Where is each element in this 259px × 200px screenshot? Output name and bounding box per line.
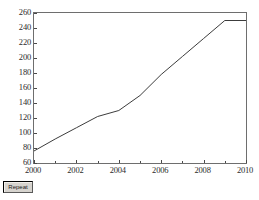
y-tick-label: 220 (1, 38, 31, 47)
x-tick-mark (98, 161, 99, 163)
plot-frame (33, 12, 247, 164)
y-tick-mark (34, 73, 37, 74)
chart-window: 6080100120140160180200220240260 20002002… (0, 0, 259, 200)
y-tick-mark (34, 118, 37, 119)
repeat-button[interactable]: Repeat (3, 181, 33, 193)
y-tick-mark (34, 88, 37, 89)
y-tick-mark (34, 103, 37, 104)
y-tick-mark (34, 28, 37, 29)
y-tick-label: 240 (1, 23, 31, 32)
x-tick-label: 2006 (152, 166, 168, 175)
x-tick-label: 2002 (67, 166, 83, 175)
x-tick-label: 2010 (237, 166, 253, 175)
y-tick-mark (34, 43, 37, 44)
x-tick-mark (140, 161, 141, 163)
series-1-line (34, 21, 246, 152)
x-tick-mark (246, 160, 247, 163)
y-tick-mark (34, 163, 37, 164)
y-tick-label: 140 (1, 98, 31, 107)
x-tick-mark (55, 161, 56, 163)
y-tick-mark (34, 58, 37, 59)
x-tick-mark (161, 160, 162, 163)
y-tick-mark (34, 148, 37, 149)
y-axis-tick-labels: 6080100120140160180200220240260 (0, 12, 31, 164)
y-tick-mark (34, 13, 37, 14)
y-tick-label: 200 (1, 53, 31, 62)
y-tick-label: 260 (1, 8, 31, 17)
y-tick-label: 100 (1, 128, 31, 137)
x-tick-label: 2004 (110, 166, 126, 175)
x-tick-mark (182, 161, 183, 163)
plot-area (34, 13, 246, 163)
y-tick-label: 120 (1, 113, 31, 122)
y-tick-label: 160 (1, 83, 31, 92)
y-tick-label: 80 (1, 143, 31, 152)
x-tick-mark (225, 161, 226, 163)
line-series-svg (34, 13, 246, 163)
x-tick-mark (34, 160, 35, 163)
figure-canvas: 6080100120140160180200220240260 20002002… (0, 0, 259, 178)
x-tick-mark (76, 160, 77, 163)
x-tick-mark (119, 160, 120, 163)
y-tick-label: 180 (1, 68, 31, 77)
x-tick-label: 2000 (25, 166, 41, 175)
x-tick-label: 2008 (194, 166, 210, 175)
y-tick-mark (34, 133, 37, 134)
x-axis-tick-labels: 200020022004200620082010 (33, 166, 247, 180)
x-tick-mark (204, 160, 205, 163)
